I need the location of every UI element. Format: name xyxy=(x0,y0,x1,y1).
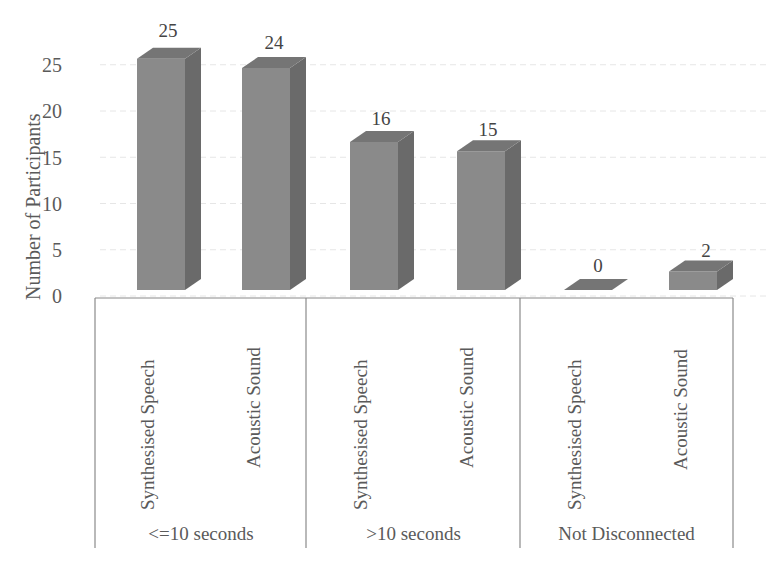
value-label: 15 xyxy=(458,119,518,141)
bar xyxy=(137,48,201,290)
y-tick-25: 25 xyxy=(32,55,62,75)
bar xyxy=(350,131,414,290)
bar xyxy=(242,57,306,290)
y-tick-15: 15 xyxy=(32,148,62,168)
y-tick-0: 0 xyxy=(32,286,62,306)
group-label: <=10 seconds xyxy=(96,523,306,545)
y-tick-5: 5 xyxy=(32,240,62,260)
bar-chart: Number of Participants 25 20 15 10 5 0 2… xyxy=(0,0,783,568)
group-label: >10 seconds xyxy=(307,523,520,545)
bar xyxy=(669,261,733,291)
y-tick-10: 10 xyxy=(32,194,62,214)
value-label: 25 xyxy=(138,20,198,42)
value-label: 24 xyxy=(244,32,304,54)
bars xyxy=(137,48,733,290)
bar xyxy=(457,140,521,290)
category-axis-box xyxy=(95,298,733,548)
value-label: 0 xyxy=(568,255,628,277)
value-label: 2 xyxy=(676,240,736,262)
plot-area xyxy=(0,0,783,568)
y-tick-20: 20 xyxy=(32,101,62,121)
group-label: Not Disconnected xyxy=(520,523,733,545)
value-label: 16 xyxy=(351,108,411,130)
bar xyxy=(564,279,628,290)
